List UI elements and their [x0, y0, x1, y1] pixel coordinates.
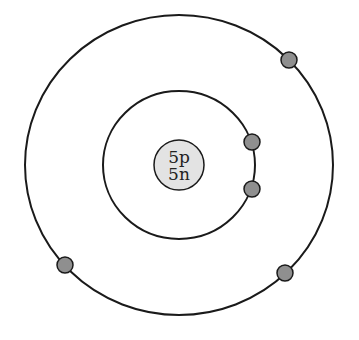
electron-inner	[244, 181, 260, 197]
electron-outer	[277, 265, 293, 281]
nucleus: 5p 5n	[154, 140, 204, 190]
bohr-atom-diagram: 5p 5n	[0, 0, 359, 340]
electron-inner	[244, 134, 260, 150]
electron-outer	[57, 257, 73, 273]
nucleus-neutrons-label: 5n	[168, 164, 190, 184]
electron-outer	[281, 52, 297, 68]
